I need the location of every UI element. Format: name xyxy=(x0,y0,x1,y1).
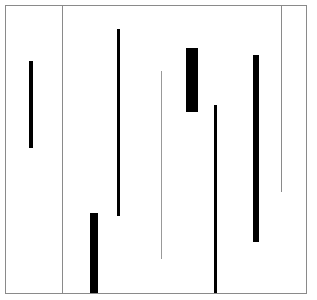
bar-2 xyxy=(117,29,120,216)
thin-line-1 xyxy=(161,71,162,259)
bar-3 xyxy=(90,213,98,293)
block-1 xyxy=(186,48,198,112)
bar-5 xyxy=(253,55,259,242)
bar-1 xyxy=(29,61,33,148)
thin-line-2 xyxy=(281,5,282,192)
diagram-frame xyxy=(5,5,307,294)
divider-line xyxy=(62,5,63,293)
bar-4 xyxy=(214,105,217,293)
